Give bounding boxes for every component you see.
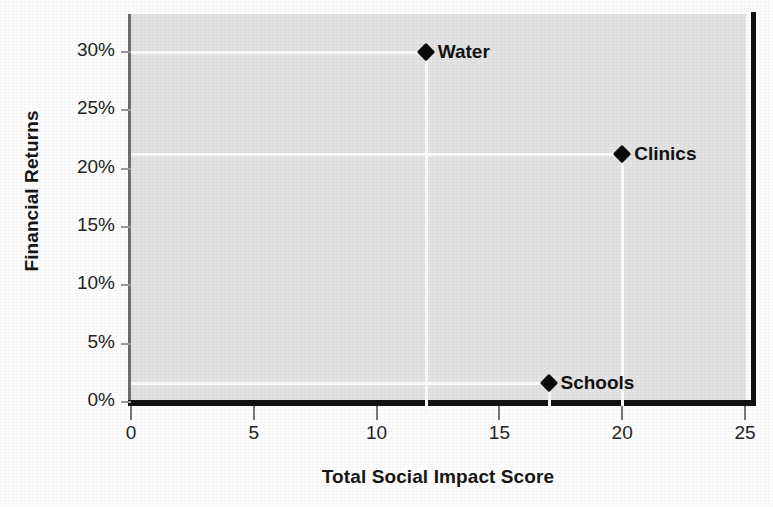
axis-spine-bottom — [128, 400, 756, 406]
x-axis-tick-label: 15 — [469, 422, 529, 444]
axis-spine-left — [128, 14, 131, 404]
leader-line-vertical — [548, 389, 551, 414]
plot-area — [131, 14, 746, 402]
y-axis-tick — [121, 168, 131, 170]
x-axis-tick — [253, 406, 255, 420]
x-axis-title: Total Social Impact Score — [131, 466, 745, 488]
y-axis-tick-label: 10% — [10, 272, 115, 294]
data-point-label: Clinics — [634, 143, 696, 165]
x-axis-tick-label: 20 — [592, 422, 652, 444]
y-axis-tick — [121, 343, 131, 345]
chart-figure: Financial Returns Total Social Impact Sc… — [0, 0, 773, 507]
x-axis-tick-label: 5 — [224, 422, 284, 444]
y-axis-tick — [121, 109, 131, 111]
data-point-label: Water — [438, 41, 490, 63]
axis-spine-right — [751, 12, 756, 406]
y-axis-tick — [121, 226, 131, 228]
leader-line-horizontal — [131, 51, 420, 54]
y-axis-tick — [121, 284, 131, 286]
x-axis-tick — [130, 406, 132, 420]
x-axis-tick-label: 25 — [715, 422, 773, 444]
leader-line-horizontal — [131, 382, 543, 385]
x-axis-tick-label: 10 — [347, 422, 407, 444]
y-axis-tick-label: 30% — [10, 39, 115, 61]
x-axis-tick-label: 0 — [101, 422, 161, 444]
x-axis-tick — [621, 406, 623, 420]
leader-line-horizontal — [131, 153, 616, 156]
leader-line-vertical — [425, 58, 428, 414]
y-axis-tick-label: 25% — [10, 97, 115, 119]
y-axis-tick-label: 5% — [10, 331, 115, 353]
y-axis-tick-label: 15% — [10, 214, 115, 236]
x-axis-tick — [376, 406, 378, 420]
y-axis-tick-label: 20% — [10, 156, 115, 178]
x-axis-tick — [498, 406, 500, 420]
y-axis-tick — [121, 51, 131, 53]
data-point-label: Schools — [561, 372, 635, 394]
y-axis-tick-label: 0% — [10, 389, 115, 411]
x-axis-tick — [744, 406, 746, 420]
y-axis-tick — [121, 401, 131, 403]
